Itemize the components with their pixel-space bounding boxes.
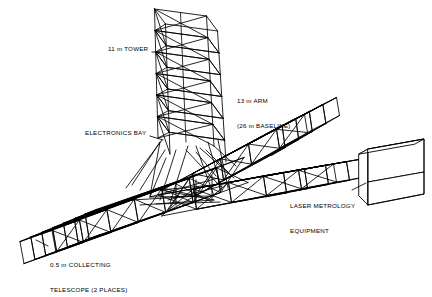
- label-collecting-telescope-line2: TELESCOPE (2 PLACES): [50, 286, 128, 294]
- label-electronics-bay: ELECTRONICS BAY: [85, 129, 146, 137]
- label-arm: 13 m ARM (26 m BASELINE): [237, 81, 291, 147]
- label-arm-line1: 13 m ARM: [237, 97, 291, 105]
- label-tower: 11 m TOWER: [108, 45, 148, 53]
- label-collecting-telescope-line1: 0.5 m COLLECTING: [50, 261, 128, 269]
- label-laser-metrology-line1: LASER METROLOGY: [290, 202, 355, 210]
- label-laser-metrology: LASER METROLOGY EQUIPMENT: [290, 186, 355, 252]
- label-laser-metrology-line2: EQUIPMENT: [290, 227, 355, 235]
- label-collecting-telescope: 0.5 m COLLECTING TELESCOPE (2 PLACES): [50, 245, 128, 297]
- label-arm-line2: (26 m BASELINE): [237, 122, 291, 130]
